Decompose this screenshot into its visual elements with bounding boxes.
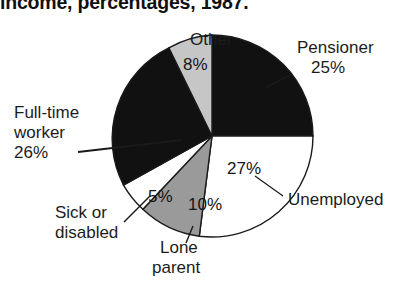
slice-label-other: Other — [190, 30, 233, 50]
slice-label-pensioner: Pensioner — [297, 38, 374, 58]
slice-label-lone-parent-line1: Lone — [160, 238, 198, 258]
slice-value-full-time-worker: 26% — [14, 143, 48, 163]
slice-label-sick-or-disabled-line1: Sick or — [55, 203, 107, 223]
clipped-footer-caption — [0, 284, 410, 292]
chart-canvas: income, percentages, 1987. Other Pension… — [0, 0, 410, 292]
slice-label-lone-parent-line2: parent — [152, 258, 200, 278]
slice-value-lone-parent: 10% — [188, 196, 222, 214]
slice-label-full-time-worker-line2: worker — [14, 123, 65, 143]
slice-value-pensioner: 25% — [311, 58, 345, 78]
slice-value-sick-or-disabled: 5% — [148, 188, 173, 206]
pie-slice-unemployed — [199, 136, 313, 237]
slice-label-unemployed: Unemployed — [288, 190, 383, 210]
slice-value-unemployed: 27% — [227, 160, 261, 178]
slice-label-full-time-worker-line1: Full-time — [14, 103, 79, 123]
slice-label-sick-or-disabled-line2: disabled — [55, 223, 118, 243]
slice-value-other: 8% — [183, 56, 208, 74]
